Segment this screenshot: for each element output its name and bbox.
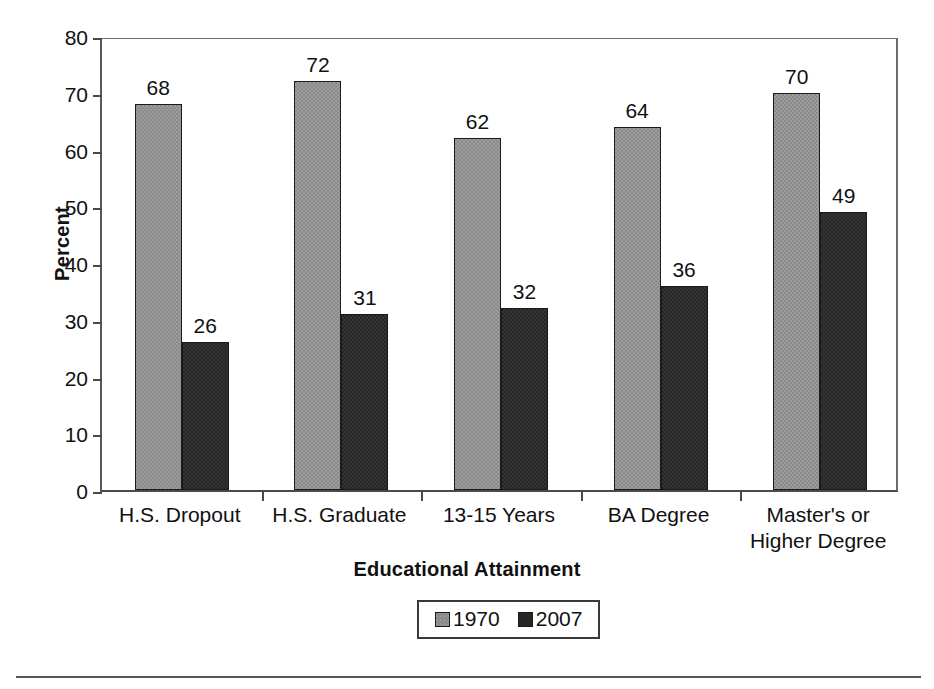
bar-chart-figure: Percent 80706050403020100682672316232643… bbox=[0, 0, 934, 689]
x-tick-mark bbox=[421, 490, 423, 501]
y-tick-mark bbox=[93, 95, 102, 97]
bar-value-label: 26 bbox=[194, 315, 217, 337]
bar-2007-5[interactable] bbox=[820, 212, 867, 490]
bar-1970-5[interactable] bbox=[773, 93, 820, 490]
legend-label-2007: 2007 bbox=[536, 608, 583, 630]
y-tick-mark bbox=[93, 152, 102, 154]
y-tick-label: 20 bbox=[65, 367, 88, 391]
y-tick-mark bbox=[93, 38, 102, 40]
x-axis-title: Educational Attainment bbox=[0, 558, 934, 581]
x-category-label: Master's orHigher Degree bbox=[738, 502, 898, 554]
bar-2007-4[interactable] bbox=[661, 286, 708, 490]
bar-value-label: 72 bbox=[306, 54, 329, 76]
bar-1970-2[interactable] bbox=[294, 81, 341, 490]
x-tick-mark bbox=[740, 490, 742, 501]
bar-2007-1[interactable] bbox=[182, 342, 229, 490]
legend-item-1970[interactable]: 1970 bbox=[435, 608, 500, 630]
y-axis-title: Percent bbox=[51, 164, 74, 324]
y-tick-mark bbox=[93, 379, 102, 381]
x-tick-mark bbox=[262, 490, 264, 501]
bar-1970-4[interactable] bbox=[614, 127, 661, 490]
bar-value-label: 64 bbox=[625, 100, 648, 122]
bar-value-label: 70 bbox=[785, 66, 808, 88]
bar-group: 7049 bbox=[740, 39, 900, 490]
x-category-label: 13-15 Years bbox=[419, 502, 579, 528]
bar-value-label: 32 bbox=[513, 281, 536, 303]
bar-group: 6826 bbox=[102, 39, 262, 490]
bar-value-label: 62 bbox=[466, 111, 489, 133]
bar-group: 6436 bbox=[581, 39, 741, 490]
bar-1970-1[interactable] bbox=[135, 104, 182, 490]
y-tick-label: 40 bbox=[65, 253, 88, 277]
bar-1970-3[interactable] bbox=[454, 138, 501, 490]
x-category-label: BA Degree bbox=[579, 502, 739, 528]
y-tick-label: 0 bbox=[76, 480, 88, 504]
x-category-label: H.S. Graduate bbox=[260, 502, 420, 528]
chart-legend: 1970 2007 bbox=[417, 600, 600, 639]
bar-group: 7231 bbox=[262, 39, 422, 490]
bar-group: 6232 bbox=[421, 39, 581, 490]
bar-value-label: 49 bbox=[832, 185, 855, 207]
y-tick-mark bbox=[93, 435, 102, 437]
legend-item-2007[interactable]: 2007 bbox=[518, 608, 583, 630]
gray-swatch-icon bbox=[435, 612, 450, 627]
y-tick-label: 80 bbox=[65, 26, 88, 50]
y-tick-label: 60 bbox=[65, 140, 88, 164]
x-tick-mark bbox=[581, 490, 583, 501]
plot-area: 8070605040302010068267231623264367049 bbox=[100, 38, 898, 492]
bar-value-label: 36 bbox=[672, 259, 695, 281]
y-tick-mark bbox=[93, 208, 102, 210]
bar-2007-2[interactable] bbox=[341, 314, 388, 490]
bottom-divider bbox=[16, 676, 921, 678]
y-tick-mark bbox=[93, 265, 102, 267]
y-tick-mark bbox=[93, 322, 102, 324]
bar-2007-3[interactable] bbox=[501, 308, 548, 490]
y-tick-label: 30 bbox=[65, 310, 88, 334]
x-category-label: H.S. Dropout bbox=[100, 502, 260, 528]
bar-value-label: 31 bbox=[353, 287, 376, 309]
y-tick-label: 70 bbox=[65, 83, 88, 107]
y-tick-label: 50 bbox=[65, 196, 88, 220]
legend-label-1970: 1970 bbox=[453, 608, 500, 630]
bar-value-label: 68 bbox=[147, 77, 170, 99]
y-tick-mark bbox=[93, 492, 102, 494]
y-tick-label: 10 bbox=[65, 423, 88, 447]
dark-swatch-icon bbox=[518, 612, 533, 627]
